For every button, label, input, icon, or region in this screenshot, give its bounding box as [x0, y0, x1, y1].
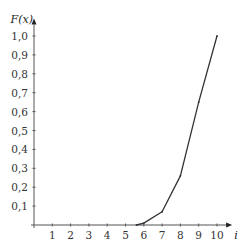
data-point: [161, 211, 163, 213]
y-tick-label: 0,5: [11, 125, 28, 137]
data-point: [180, 175, 182, 177]
x-axis-arrow-icon: [226, 223, 232, 228]
x-tick-label: 9: [195, 229, 202, 241]
x-tick-label: 7: [159, 229, 166, 241]
data-point: [136, 224, 138, 226]
x-tick-label: 1: [49, 229, 56, 241]
data-point: [216, 35, 218, 37]
data-point: [143, 222, 145, 224]
x-tick-label: 3: [86, 229, 93, 241]
series-line: [137, 36, 218, 225]
y-tick-label: 0,4: [11, 143, 28, 155]
y-tick-label: 1,0: [11, 30, 28, 42]
y-tick-label: 0,8: [11, 68, 28, 80]
y-tick-label: 0,2: [11, 181, 28, 193]
x-tick-label: 4: [104, 229, 111, 241]
y-tick-label: 0,7: [11, 87, 28, 99]
x-tick-label: 5: [122, 229, 129, 241]
y-tick-label: 0,3: [11, 162, 28, 174]
x-tick-label: 6: [140, 229, 147, 241]
x-axis-title: i: [234, 229, 238, 242]
x-tick-label: 10: [210, 229, 223, 241]
y-tick-label: 0,6: [11, 106, 28, 118]
x-tick-label: 8: [177, 229, 184, 241]
y-axis-title: F(x): [10, 13, 33, 26]
x-tick-label: 2: [67, 229, 74, 241]
cdf-chart: 123456789100,10,20,30,40,50,60,70,80,91,…: [0, 0, 248, 248]
y-tick-label: 0,1: [11, 200, 28, 212]
y-tick-label: 0,9: [11, 49, 28, 61]
data-point: [198, 101, 200, 103]
